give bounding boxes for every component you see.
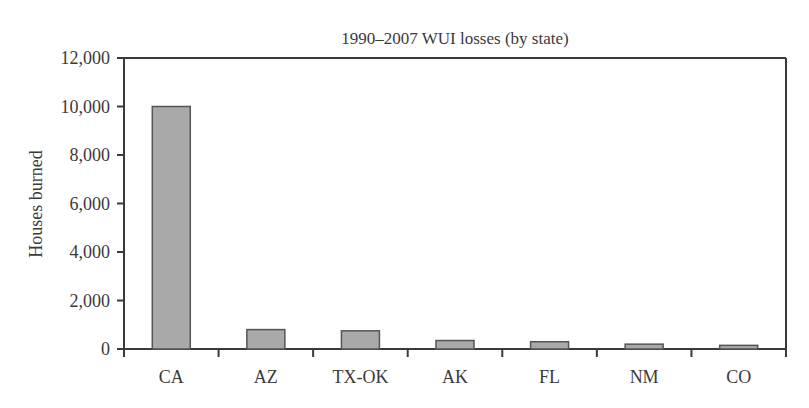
y-tick-label: 4,000 xyxy=(70,242,111,262)
bar-chart: 1990–2007 WUI losses (by state) Houses b… xyxy=(0,0,809,408)
bar-nm xyxy=(625,344,663,349)
bar-co xyxy=(720,345,758,349)
y-tick-label: 0 xyxy=(101,339,110,359)
x-tick-label: AK xyxy=(442,367,468,387)
bars xyxy=(152,107,757,350)
bar-tx-ok xyxy=(341,331,379,349)
bar-ca xyxy=(152,107,190,350)
bar-az xyxy=(247,330,285,349)
x-tick-label: FL xyxy=(539,367,560,387)
x-tick-label: AZ xyxy=(254,367,278,387)
x-tick-label: CO xyxy=(726,367,751,387)
x-tick-label: CA xyxy=(159,367,184,387)
x-tick-label: NM xyxy=(630,367,659,387)
y-tick-label: 10,000 xyxy=(61,97,111,117)
y-tick-label: 2,000 xyxy=(70,291,111,311)
x-tick-label: TX-OK xyxy=(332,367,388,387)
chart-title: 1990–2007 WUI losses (by state) xyxy=(341,29,568,48)
bar-ak xyxy=(436,341,474,349)
y-tick-label: 8,000 xyxy=(70,145,111,165)
x-axis-ticks: CAAZTX-OKAKFLNMCO xyxy=(124,349,786,387)
y-axis-label: Houses burned xyxy=(26,150,46,257)
y-tick-label: 6,000 xyxy=(70,194,111,214)
bar-fl xyxy=(531,342,569,349)
y-axis-ticks: 02,0004,0006,0008,00010,00012,000 xyxy=(61,48,125,359)
y-tick-label: 12,000 xyxy=(61,48,111,68)
plot-frame xyxy=(124,58,786,357)
